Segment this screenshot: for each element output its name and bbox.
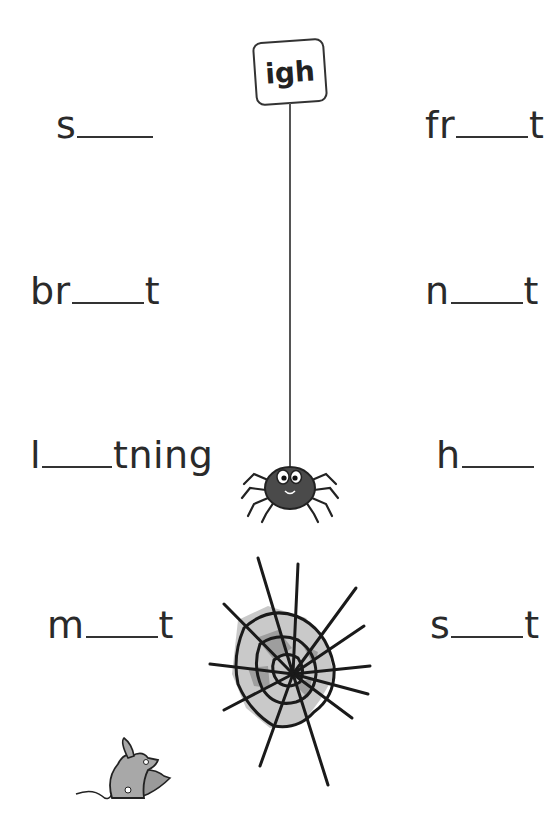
word-blank[interactable] (451, 634, 523, 638)
word-left-1: s (56, 106, 154, 144)
spider-web-icon (198, 548, 374, 798)
word-blank[interactable] (462, 464, 534, 468)
mouse-icon (72, 736, 180, 806)
word-prefix: l (30, 433, 41, 477)
word-suffix: t (524, 269, 539, 313)
spider-icon (238, 458, 342, 524)
word-prefix: s (430, 603, 450, 647)
igh-sign: igh (252, 38, 328, 107)
word-suffix: t (524, 603, 539, 647)
word-prefix: n (425, 269, 450, 313)
word-suffix: t (145, 269, 160, 313)
word-suffix: tning (113, 433, 213, 477)
word-left-2: brt (30, 272, 160, 310)
spider-thread (289, 103, 291, 471)
word-blank[interactable] (456, 134, 528, 138)
word-right-4: st (430, 606, 540, 644)
word-prefix: h (436, 433, 461, 477)
word-prefix: br (30, 269, 71, 313)
word-blank[interactable] (42, 464, 112, 468)
word-blank[interactable] (72, 300, 144, 304)
word-right-3: h (436, 436, 535, 474)
word-prefix: m (47, 603, 85, 647)
word-left-3: ltning (30, 436, 213, 474)
word-right-1: frt (425, 106, 544, 144)
word-suffix: t (529, 103, 544, 147)
word-left-4: mt (47, 606, 174, 644)
word-blank[interactable] (86, 634, 158, 638)
word-prefix: fr (425, 103, 455, 147)
word-blank[interactable] (77, 134, 153, 138)
word-suffix: t (159, 603, 174, 647)
word-blank[interactable] (451, 300, 523, 304)
word-prefix: s (56, 103, 76, 147)
word-right-2: nt (425, 272, 539, 310)
sign-label: igh (264, 54, 316, 90)
